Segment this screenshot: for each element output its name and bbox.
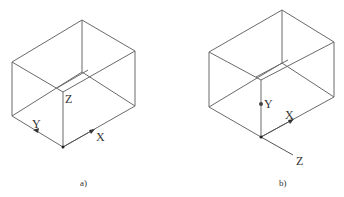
y-axis-marker-b (259, 102, 263, 106)
box-a (12, 20, 135, 147)
z-axis-line-b (261, 137, 293, 155)
x-axis-arrow-a (63, 130, 93, 147)
x-arrowhead-a (89, 129, 95, 134)
figure-a: X Y Z a) (12, 20, 135, 188)
caption-b: b) (279, 178, 287, 188)
origin-dot-a (62, 146, 65, 149)
diagram-canvas: X Y Z a) X Y Z b) (0, 0, 344, 197)
box-a-inner-ledge (57, 70, 88, 88)
axes-a: X Y Z (32, 92, 105, 149)
origin-dot-b (260, 136, 263, 139)
figure-b: X Y Z b) (209, 10, 334, 188)
z-axis-label-a: Z (65, 92, 72, 106)
x-axis-label-a: X (96, 130, 105, 144)
box-a-top-face (12, 20, 135, 92)
z-axis-label-b: Z (296, 154, 303, 168)
box-b-bottom-left (209, 107, 261, 137)
x-axis-arrow-b (261, 120, 292, 137)
box-b (209, 10, 334, 137)
box-b-back-right (282, 63, 334, 97)
axes-b: X Y Z (259, 97, 303, 168)
box-a-back-right (82, 72, 135, 106)
y-axis-label-b: Y (264, 97, 273, 111)
x-axis-label-b: X (285, 108, 294, 122)
caption-a: a) (80, 178, 87, 188)
y-axis-label-a: Y (32, 117, 41, 131)
